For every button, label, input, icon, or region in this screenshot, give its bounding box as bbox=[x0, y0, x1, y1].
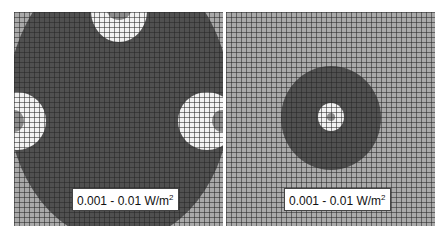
core bbox=[327, 113, 335, 121]
label-sup: 2 bbox=[381, 193, 385, 202]
intensity-label: 0.001 - 0.01 W/m2 bbox=[72, 188, 179, 211]
label-text: 0.001 - 0.01 W/m bbox=[77, 194, 169, 208]
label-sup: 2 bbox=[169, 193, 173, 202]
left-panel: 0.001 - 0.01 W/m2 bbox=[14, 12, 223, 226]
label-text: 0.001 - 0.01 W/m bbox=[289, 194, 381, 208]
right-panel: 0.001 - 0.01 W/m2 bbox=[226, 12, 435, 226]
intensity-label: 0.001 - 0.01 W/m2 bbox=[284, 188, 391, 211]
